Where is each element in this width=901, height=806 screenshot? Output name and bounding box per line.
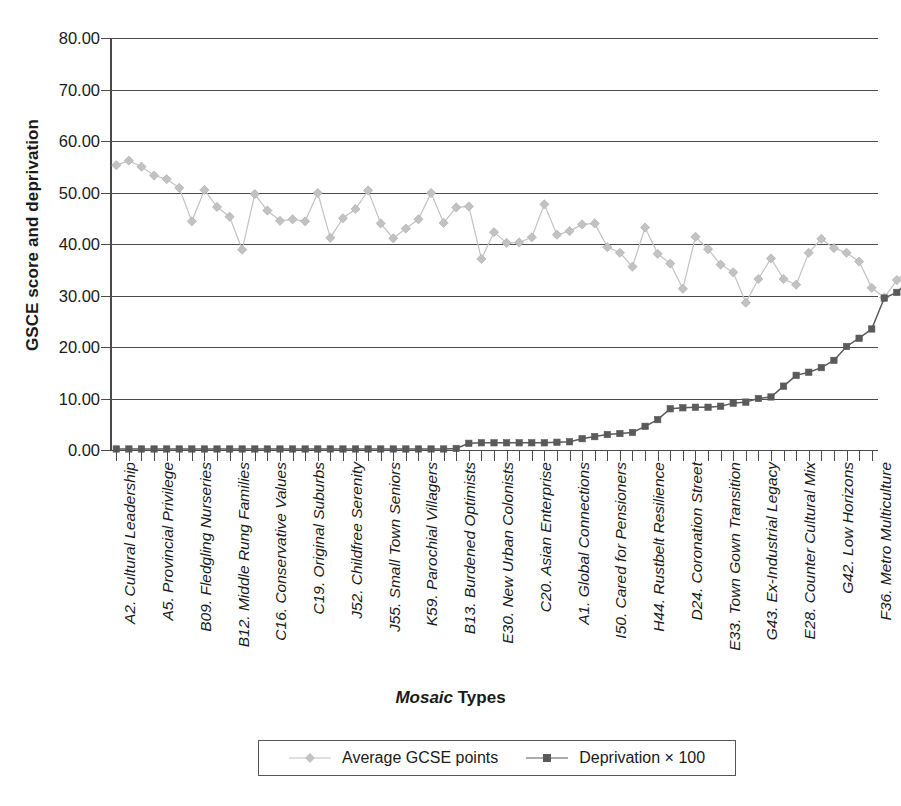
y-tick-mark xyxy=(101,90,110,91)
x-tick-mark xyxy=(683,450,684,461)
y-tick-label: 20.00 xyxy=(8,338,100,357)
data-point xyxy=(793,372,799,378)
x-tick-mark xyxy=(733,450,734,461)
x-tick-mark xyxy=(418,450,419,461)
legend-entry[interactable]: Deprivation × 100 xyxy=(526,749,705,767)
legend-swatch-square-icon xyxy=(526,751,568,765)
x-tick-mark xyxy=(607,450,608,461)
x-axis-label: D24. Coronation Street xyxy=(689,462,705,621)
data-point xyxy=(578,220,587,229)
chart-legend: Average GCSE pointsDeprivation × 100 xyxy=(258,740,736,776)
x-axis-label: A1. Global Connections xyxy=(576,462,592,625)
x-tick-mark xyxy=(116,450,117,461)
data-point xyxy=(843,343,849,349)
data-point xyxy=(780,383,786,389)
data-point xyxy=(112,161,121,170)
y-tick-mark xyxy=(101,141,110,142)
x-tick-mark xyxy=(204,450,205,461)
series-gcse xyxy=(112,156,901,329)
y-tick-label: 0.00 xyxy=(8,441,100,460)
data-point xyxy=(200,185,209,194)
series-deprivation xyxy=(113,58,901,452)
data-point xyxy=(565,227,574,236)
x-tick-mark xyxy=(318,450,319,461)
data-point xyxy=(187,217,196,226)
x-tick-mark xyxy=(809,450,810,461)
data-point xyxy=(540,200,549,209)
data-point xyxy=(642,423,648,429)
data-point xyxy=(829,244,838,253)
x-tick-mark xyxy=(481,450,482,461)
x-tick-mark xyxy=(771,450,772,461)
x-axis-category-labels: A2. Cultural LeadershipA5. Provincial Pr… xyxy=(110,462,878,674)
data-point xyxy=(842,248,851,257)
x-tick-mark xyxy=(293,450,294,461)
x-tick-mark xyxy=(746,450,747,461)
data-point xyxy=(855,257,864,266)
data-point xyxy=(894,289,900,295)
data-point xyxy=(692,404,698,410)
x-tick-mark xyxy=(343,450,344,461)
x-axis-label: K59. Parochial Villagers xyxy=(424,462,440,626)
x-tick-mark xyxy=(167,450,168,461)
x-tick-mark xyxy=(544,450,545,461)
data-point xyxy=(730,400,736,406)
data-point xyxy=(527,233,536,242)
y-tick-label: 50.00 xyxy=(8,183,100,202)
data-point xyxy=(729,268,738,277)
data-point xyxy=(831,357,837,363)
x-tick-mark xyxy=(217,450,218,461)
data-point xyxy=(363,186,372,195)
data-point xyxy=(579,435,585,441)
x-tick-mark xyxy=(632,450,633,461)
y-tick-mark xyxy=(101,244,110,245)
x-axis-label: J55. Small Town Seniors xyxy=(387,462,403,632)
data-point xyxy=(717,403,723,409)
data-point xyxy=(678,284,687,293)
y-tick-label: 60.00 xyxy=(8,132,100,151)
y-tick-mark xyxy=(101,296,110,297)
data-point xyxy=(137,162,146,171)
data-point xyxy=(705,404,711,410)
x-tick-mark xyxy=(784,450,785,461)
x-tick-mark xyxy=(645,450,646,461)
data-point xyxy=(338,214,347,223)
x-tick-mark xyxy=(620,450,621,461)
y-tick-mark xyxy=(101,38,110,39)
x-tick-mark xyxy=(570,450,571,461)
x-tick-mark xyxy=(305,450,306,461)
x-tick-mark xyxy=(431,450,432,461)
x-axis-label: F36. Metro Multiculture xyxy=(878,462,894,621)
x-tick-mark xyxy=(444,450,445,461)
series-layer xyxy=(110,38,878,450)
y-tick-label: 30.00 xyxy=(8,286,100,305)
data-point xyxy=(592,433,598,439)
x-axis-label: E33. Town Gown Transition xyxy=(727,462,743,651)
x-tick-mark xyxy=(821,450,822,461)
data-point xyxy=(754,274,763,283)
data-point xyxy=(766,254,775,263)
x-tick-mark xyxy=(847,450,848,461)
x-tick-mark xyxy=(834,450,835,461)
x-tick-mark xyxy=(230,450,231,461)
x-axis-label: B09. Fledgling Nurseries xyxy=(198,462,214,632)
y-axis-tick-labels: 0.0010.0020.0030.0040.0050.0060.0070.008… xyxy=(0,38,100,450)
x-tick-mark xyxy=(557,450,558,461)
x-tick-mark xyxy=(179,450,180,461)
x-tick-mark xyxy=(469,450,470,461)
data-point xyxy=(250,189,259,198)
data-point xyxy=(477,254,486,263)
y-tick-mark xyxy=(101,193,110,194)
x-tick-mark xyxy=(381,450,382,461)
data-point xyxy=(881,295,887,301)
series-line xyxy=(116,61,901,449)
x-tick-mark xyxy=(406,450,407,461)
legend-entry[interactable]: Average GCSE points xyxy=(289,749,498,767)
legend-marker xyxy=(305,753,315,763)
x-tick-mark xyxy=(796,450,797,461)
data-point xyxy=(856,335,862,341)
x-tick-mark xyxy=(267,450,268,461)
x-axis-label: E30. New Urban Colonists xyxy=(500,462,516,644)
y-tick-label: 80.00 xyxy=(8,29,100,48)
legend-swatch-diamond-icon xyxy=(289,751,331,765)
